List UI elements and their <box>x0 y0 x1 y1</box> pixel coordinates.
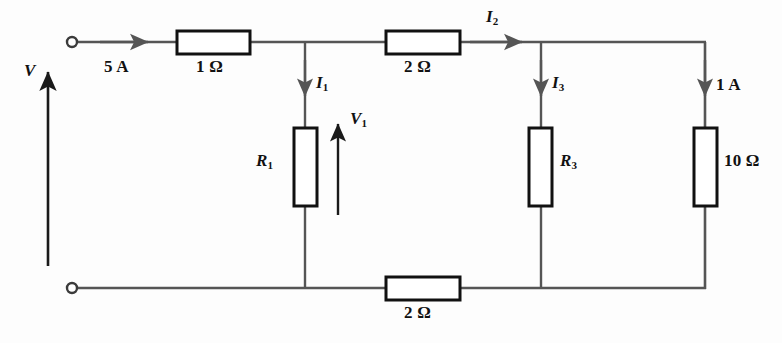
resistor-10ohm[interactable] <box>694 128 717 206</box>
label-resistor-2ohm-top: 2 Ω <box>404 58 431 75</box>
label-resistor-2ohm-bottom: 2 Ω <box>404 304 431 321</box>
label-voltage-v1: V1 <box>350 110 367 127</box>
label-current-5a: 5 A <box>104 58 129 75</box>
resistor-1ohm[interactable] <box>177 31 250 54</box>
label-current-i1: I1 <box>316 74 329 91</box>
circuit-schematic-canvas <box>0 0 782 343</box>
input-terminal-negative[interactable] <box>67 283 77 293</box>
resistor-r1[interactable] <box>294 128 317 206</box>
circuit-diagram: V 5 A 1 Ω I1 R1 V1 2 Ω I2 I3 R3 1 A 10 Ω <box>0 0 782 343</box>
wire-group <box>78 42 706 289</box>
label-resistor-10ohm: 10 Ω <box>724 152 760 169</box>
label-resistor-1ohm: 1 Ω <box>196 58 223 75</box>
label-resistor-r3: R3 <box>560 152 577 169</box>
label-resistor-r1: R1 <box>256 152 273 169</box>
label-current-i2: I2 <box>486 8 499 25</box>
resistor-2ohm-bottom[interactable] <box>386 277 460 300</box>
resistor-2ohm-top[interactable] <box>386 31 460 54</box>
label-current-1a: 1 A <box>716 76 741 93</box>
label-source-voltage: V <box>24 62 36 79</box>
input-terminal-positive[interactable] <box>67 37 77 47</box>
resistor-r3[interactable] <box>529 128 552 206</box>
label-current-i3: I3 <box>552 74 565 91</box>
